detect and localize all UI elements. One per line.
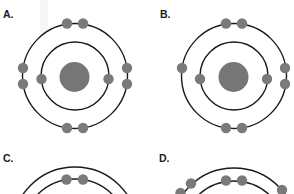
scan-smudge [40, 0, 48, 34]
electron [62, 123, 72, 133]
electron [221, 18, 231, 28]
electron [78, 18, 88, 28]
inner-shell [22, 179, 128, 194]
electron [237, 123, 247, 133]
electron [177, 63, 187, 73]
outer-shell [12, 167, 138, 194]
electron [18, 79, 28, 89]
electron [237, 18, 247, 28]
option-label: D. [159, 152, 170, 164]
electron [186, 178, 196, 188]
electron [262, 74, 272, 84]
option-c-diagram[interactable]: C. [3, 152, 138, 194]
electron [237, 175, 247, 185]
option-label: B. [160, 8, 171, 20]
option-label: C. [3, 152, 14, 164]
inner-shell [182, 181, 286, 194]
electron [221, 123, 231, 133]
option-d-diagram[interactable]: D. [159, 152, 294, 194]
atom-diagram-question: A. B. C. D. [0, 0, 294, 194]
electron [18, 63, 28, 73]
electron [221, 175, 231, 185]
option-b-diagram[interactable]: B. [160, 8, 290, 133]
electron [175, 188, 185, 194]
electron [280, 79, 290, 89]
option-a-diagram[interactable]: A. [3, 8, 132, 133]
electron [122, 63, 132, 73]
electron [78, 174, 88, 184]
electron [103, 74, 113, 84]
electron [36, 74, 46, 84]
electron [78, 123, 88, 133]
nucleus [219, 62, 249, 92]
option-label: A. [3, 8, 14, 20]
electron [61, 174, 71, 184]
electron [62, 18, 72, 28]
electron [122, 79, 132, 89]
electron [195, 74, 205, 84]
electron [280, 63, 290, 73]
nucleus [60, 62, 90, 92]
